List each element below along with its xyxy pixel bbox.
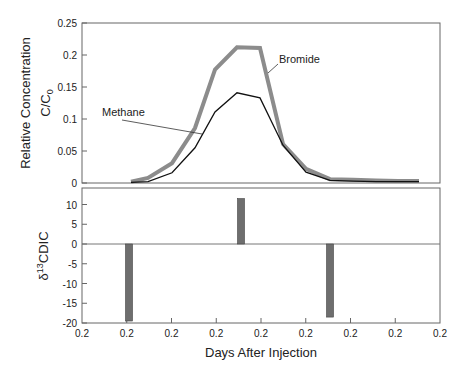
bottom-bars xyxy=(126,199,334,321)
x-tick-label: 0.2 xyxy=(75,328,89,339)
bar xyxy=(238,199,245,244)
y-tick-label: -5 xyxy=(68,259,77,270)
y-tick-label: 10 xyxy=(66,200,78,211)
annotation-arrow xyxy=(122,120,202,134)
y-tick-label: -10 xyxy=(63,279,78,290)
annotation-methane: Methane xyxy=(102,106,145,118)
x-tick-label: 0.2 xyxy=(388,328,402,339)
y-tick-label: 0.05 xyxy=(58,146,78,157)
bottom-panel: 1050-5-10-15-20 0.20.20.20.20.20.20.20.2… xyxy=(35,188,447,339)
x-tick-label: 0.2 xyxy=(254,328,268,339)
y-tick-label: 0 xyxy=(71,239,77,250)
x-tick-label: 0.2 xyxy=(433,328,447,339)
top-panel: 00.050.10.150.20.25 MethaneBromide Relat… xyxy=(18,18,440,189)
x-tick-label: 0.2 xyxy=(120,328,134,339)
bottom-plot-frame xyxy=(82,188,440,323)
top-series xyxy=(131,47,419,182)
y-tick-label: 0.1 xyxy=(63,114,77,125)
y-axis-label-top: Relative Concentration xyxy=(18,37,33,169)
y-tick-label: 0 xyxy=(71,178,77,189)
y-axis-label-bottom: δ13CDIC xyxy=(35,231,51,280)
chart: 00.050.10.150.20.25 MethaneBromide Relat… xyxy=(0,0,463,373)
bar xyxy=(126,244,133,321)
y-tick-label: 0.25 xyxy=(58,18,78,29)
annotation-bromide: Bromide xyxy=(279,53,320,65)
x-tick-label: 0.2 xyxy=(209,328,223,339)
bar xyxy=(327,244,334,317)
top-annotations: MethaneBromide xyxy=(102,53,320,134)
x-tick-label: 0.2 xyxy=(299,328,313,339)
x-axis-label: Days After Injection xyxy=(205,345,317,360)
y-axis-label-top-sub: C/C0 xyxy=(38,89,55,116)
y-tick-label: 5 xyxy=(71,219,77,230)
top-y-ticks: 00.050.10.150.20.25 xyxy=(58,18,87,189)
x-tick-label: 0.2 xyxy=(165,328,179,339)
bottom-y-ticks: 1050-5-10-15-20 xyxy=(63,200,87,330)
x-tick-label: 0.2 xyxy=(344,328,358,339)
series-bromide xyxy=(131,47,419,181)
y-tick-label: 0.2 xyxy=(63,50,77,61)
annotation-arrow xyxy=(268,64,278,73)
y-tick-label: -15 xyxy=(63,298,78,309)
y-tick-label: 0.15 xyxy=(58,82,78,93)
